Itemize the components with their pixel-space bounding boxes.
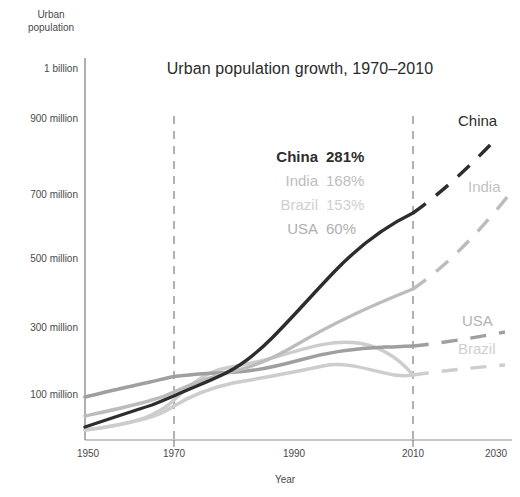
x-axis-title: Year	[255, 473, 315, 486]
legend: China 281% India 168% Brazil 153% USA 60…	[232, 148, 382, 244]
x-tick-1950: 1950	[58, 448, 118, 459]
legend-value-brazil: 153%	[326, 196, 382, 213]
legend-value-india: 168%	[326, 172, 382, 189]
series-projection-china	[413, 140, 495, 213]
chart-container: Urban population 1 billion 900 million 7…	[0, 0, 520, 497]
x-tick-1990: 1990	[264, 448, 324, 459]
legend-label-usa: USA	[256, 220, 326, 237]
legend-row-usa: USA 60%	[232, 220, 382, 244]
series-end-label-usa: USA	[462, 312, 493, 329]
series-line-brazil-fixed	[85, 365, 413, 430]
legend-row-india: India 168%	[232, 172, 382, 196]
series-line-usa	[85, 346, 413, 397]
x-tick-2030: 2030	[466, 448, 520, 459]
legend-row-brazil: Brazil 153%	[232, 196, 382, 220]
series-end-label-india: India	[468, 178, 501, 195]
legend-label-india: India	[256, 172, 326, 189]
legend-label-brazil: Brazil	[256, 196, 326, 213]
x-tick-2010: 2010	[383, 448, 443, 459]
chart-title: Urban population growth, 1970–2010	[100, 60, 500, 78]
legend-label-china: China	[256, 148, 326, 165]
series-end-label-china: China	[458, 112, 497, 129]
series-projection-india	[413, 196, 508, 289]
legend-value-usa: 60%	[326, 220, 382, 237]
series-line-china	[85, 213, 413, 427]
series-end-label-brazil: Brazil	[458, 340, 496, 357]
legend-row-china: China 281%	[232, 148, 382, 172]
series-line-india	[85, 289, 413, 416]
series-projection-brazil	[413, 365, 505, 375]
legend-value-china: 281%	[326, 148, 382, 165]
x-tick-1970: 1970	[144, 448, 204, 459]
